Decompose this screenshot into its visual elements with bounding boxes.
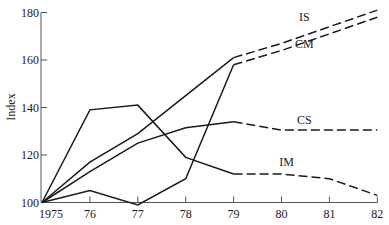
series-lines xyxy=(42,10,377,205)
x-tick-label: 77 xyxy=(132,207,144,221)
x-tick-label: 80 xyxy=(276,207,288,221)
series-label-im: IM xyxy=(279,155,294,169)
x-tick-label: 78 xyxy=(180,207,192,221)
x-tick-label: 82 xyxy=(371,207,383,221)
y-tick-label: 100 xyxy=(21,196,39,210)
x-tick-label: 81 xyxy=(323,207,335,221)
series-is-actual-line xyxy=(42,58,234,203)
y-tick-label: 120 xyxy=(21,148,39,162)
series-im-actual-line xyxy=(42,105,234,202)
x-tick-label: 79 xyxy=(228,207,240,221)
series-label-cm: CM xyxy=(295,37,314,51)
series-label-is: IS xyxy=(299,10,310,24)
y-tick-label: 160 xyxy=(21,53,39,67)
y-axis-label: Index xyxy=(4,93,18,120)
series-label-cs: CS xyxy=(297,113,312,127)
x-tick-label: 76 xyxy=(84,207,96,221)
series-im-projected-line xyxy=(234,174,378,195)
y-tick-label: 180 xyxy=(21,6,39,20)
x-tick-label: 1975 xyxy=(39,207,63,221)
line-chart: 100120140160180197576777879808182 ISCMCS… xyxy=(0,0,389,225)
axes: 100120140160180197576777879808182 xyxy=(21,6,383,221)
y-tick-label: 140 xyxy=(21,101,39,115)
